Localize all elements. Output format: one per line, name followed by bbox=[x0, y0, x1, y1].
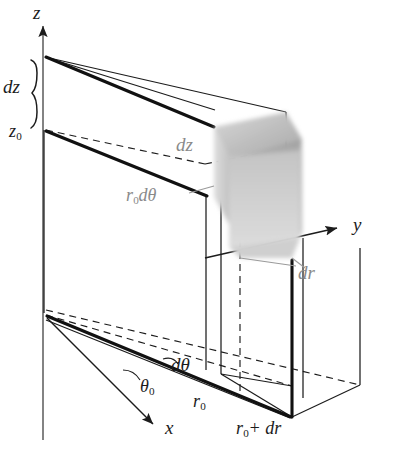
cylindrical-volume-element-figure: z y x dz z0 dz r0dθ dr dθ θ0 r0 r0+ dr bbox=[0, 0, 408, 449]
hidden-base-inner bbox=[46, 315, 292, 386]
differential-volume-element bbox=[214, 112, 302, 258]
bold-base-ray bbox=[47, 316, 291, 417]
r-dtheta-subscript: 0 bbox=[133, 194, 139, 206]
x-axis-label: x bbox=[165, 418, 173, 437]
base-outer-corner bbox=[292, 385, 360, 417]
dz-brace-label: dz bbox=[3, 77, 20, 96]
r-dtheta-label: r0dθ bbox=[126, 186, 156, 204]
z-naught-main: z bbox=[9, 121, 16, 141]
wedge-lower-ray bbox=[46, 320, 290, 418]
z-axis-label: z bbox=[33, 3, 40, 22]
figure-geometry bbox=[0, 0, 408, 449]
r-plus-dr-subscript: 0 bbox=[243, 427, 249, 439]
theta0-arc bbox=[123, 370, 140, 380]
dr-leader-long bbox=[240, 258, 296, 266]
r-dtheta-main: r bbox=[126, 185, 133, 205]
bold-top-ray bbox=[46, 57, 214, 127]
theta-naught-label: θ0 bbox=[140, 377, 154, 395]
r-plus-dr-rest: + dr bbox=[249, 418, 282, 438]
dtheta-label: dθ bbox=[171, 355, 190, 374]
theta-naught-main: θ bbox=[140, 376, 149, 396]
r-naught-main: r bbox=[193, 391, 200, 411]
dz-element-label: dz bbox=[176, 135, 193, 154]
dz-brace-path bbox=[31, 60, 37, 128]
dz-brace bbox=[31, 60, 37, 128]
top-thin-slope bbox=[45, 57, 215, 110]
hidden-base-outer bbox=[46, 310, 360, 385]
r-plus-dr-label: r0+ dr bbox=[236, 419, 281, 437]
r-plus-dr-main: r bbox=[236, 418, 243, 438]
r-naught-label: r0 bbox=[193, 392, 206, 410]
r-naught-subscript: 0 bbox=[200, 400, 206, 412]
top-outer-thin-edge bbox=[45, 57, 286, 112]
z-naught-label: z0 bbox=[9, 122, 22, 140]
z-naught-subscript: 0 bbox=[16, 130, 22, 142]
theta-naught-subscript: 0 bbox=[149, 385, 155, 397]
x-axis-line bbox=[47, 318, 153, 424]
y-axis-label: y bbox=[353, 215, 361, 234]
element-front-face bbox=[229, 151, 300, 247]
r-dtheta-rest: dθ bbox=[139, 185, 157, 205]
wedge-visible-edges bbox=[44, 57, 360, 418]
element-right-face bbox=[300, 139, 302, 238]
dr-label: dr bbox=[298, 263, 315, 282]
